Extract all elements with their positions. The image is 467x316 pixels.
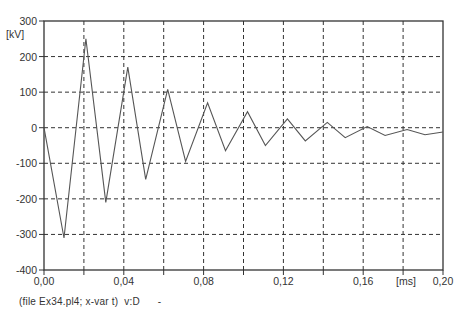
y-tick-label: -300 [16,228,37,240]
x-tick-label: 0,04 [114,275,135,287]
x-axis-unit-label: [ms] [396,275,416,287]
y-tick-label: 200 [19,51,37,63]
y-tick-label: 100 [19,86,37,98]
x-tick-label: 0,00 [34,275,55,287]
plot-caption: (file Ex34.pl4; x-var t) v:D - [19,296,161,307]
x-tick-label: 0,16 [353,275,374,287]
voltage-chart: 3002001000-100-200-300-4000,000,040,080,… [0,0,467,316]
y-axis-unit-label: [kV] [6,28,24,40]
y-tick-label: 0 [31,122,37,134]
y-tick-label: -200 [16,193,37,205]
series-line [44,39,443,238]
y-tick-label: -100 [16,157,37,169]
x-tick-label: 0,08 [193,275,214,287]
x-tick-label: 0,12 [273,275,294,287]
x-tick-label: 0,20 [433,275,454,287]
y-tick-label: 300 [19,15,37,27]
grid-lines [44,21,443,270]
series-v-d [44,39,443,238]
